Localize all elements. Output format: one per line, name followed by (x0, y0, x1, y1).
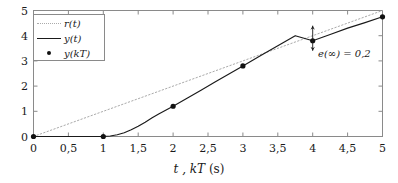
y-tick-label: 0 (10, 131, 28, 142)
chart-figure: r(t) y(t) y(kT) e(∞) = 0,2 t , kT (s) 00… (0, 0, 398, 183)
legend-label-samples: y(kT) (64, 49, 90, 59)
legend-entry-samples: y(kT) (34, 46, 106, 61)
x-tick-label: 4,5 (339, 143, 357, 154)
x-tick-label: 3 (239, 143, 246, 154)
y-tick-label: 2 (10, 81, 28, 92)
y-tick-label: 4 (10, 30, 28, 41)
legend-label-reference: r(t) (64, 19, 81, 29)
legend: r(t) y(t) y(kT) (33, 14, 105, 61)
x-tick-label: 1 (100, 143, 107, 154)
legend-swatch-solid (34, 31, 64, 46)
x-tick-label: 1,5 (129, 143, 147, 154)
x-axis-title-unit: (s) (209, 162, 225, 176)
y-tick-label: 3 (10, 55, 28, 66)
x-tick-label: 5 (379, 143, 386, 154)
x-tick-label: 4 (309, 143, 316, 154)
x-tick-label: 2 (170, 143, 177, 154)
legend-swatch-dotted (34, 16, 64, 31)
x-tick-label: 0 (30, 143, 37, 154)
legend-swatch-marker (34, 46, 64, 61)
y-tick-label: 5 (10, 5, 28, 16)
legend-entry-reference: r(t) (34, 16, 106, 31)
steady-state-error-arrow (311, 26, 315, 51)
x-tick-label: 3,5 (269, 143, 287, 154)
y-tick-label: 1 (10, 106, 28, 117)
legend-entry-response: y(t) (34, 31, 106, 46)
x-tick-label: 2,5 (199, 143, 217, 154)
x-axis-title: t , kT (s) (0, 163, 398, 175)
x-tick-label: 0,5 (60, 143, 78, 154)
legend-label-response: y(t) (64, 34, 81, 44)
steady-state-error-label: e(∞) = 0,2 (318, 49, 371, 59)
x-axis-title-main: t , kT (174, 162, 206, 176)
